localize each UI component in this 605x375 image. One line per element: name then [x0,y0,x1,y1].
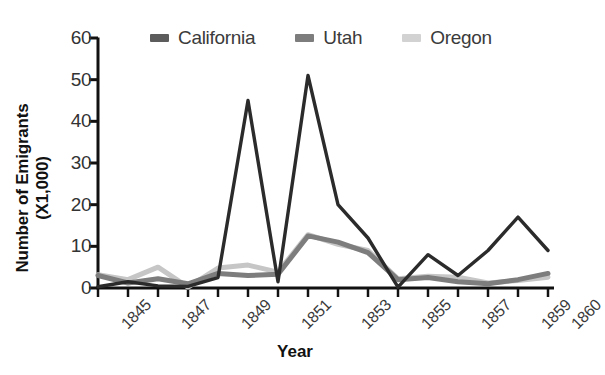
y-axis-title: Number of Emigrants (X1,000) [13,63,53,313]
y-axis-title-line2: (X1,000) [33,63,53,313]
x-tick-label: 1857 [478,296,515,333]
x-tick-label: 1847 [178,296,215,333]
y-tick-label: 60 [71,27,91,49]
x-tick-label: 1853 [358,296,395,333]
x-tick-label: 1859 [538,296,575,333]
y-tick-label: 30 [71,152,91,174]
x-tick-label: 1849 [238,296,275,333]
plot-area: 0102030405060184518471849185118531855185… [98,38,548,288]
y-tick-label: 10 [71,235,91,257]
y-tick-label: 0 [81,277,91,299]
y-tick-label: 40 [71,110,91,132]
x-tick-label: 1851 [298,296,335,333]
series-line-california [98,76,548,288]
x-tick-label: 1845 [118,296,155,333]
y-tick-label: 50 [71,69,91,91]
x-tick-label: 1860 [568,296,605,333]
y-tick-label: 20 [71,194,91,216]
series-lines [98,38,548,288]
series-line-utah [98,236,548,284]
x-tick-label: 1855 [418,296,455,333]
y-axis-title-line1: Number of Emigrants [13,104,32,273]
x-axis-title: Year [0,342,590,362]
